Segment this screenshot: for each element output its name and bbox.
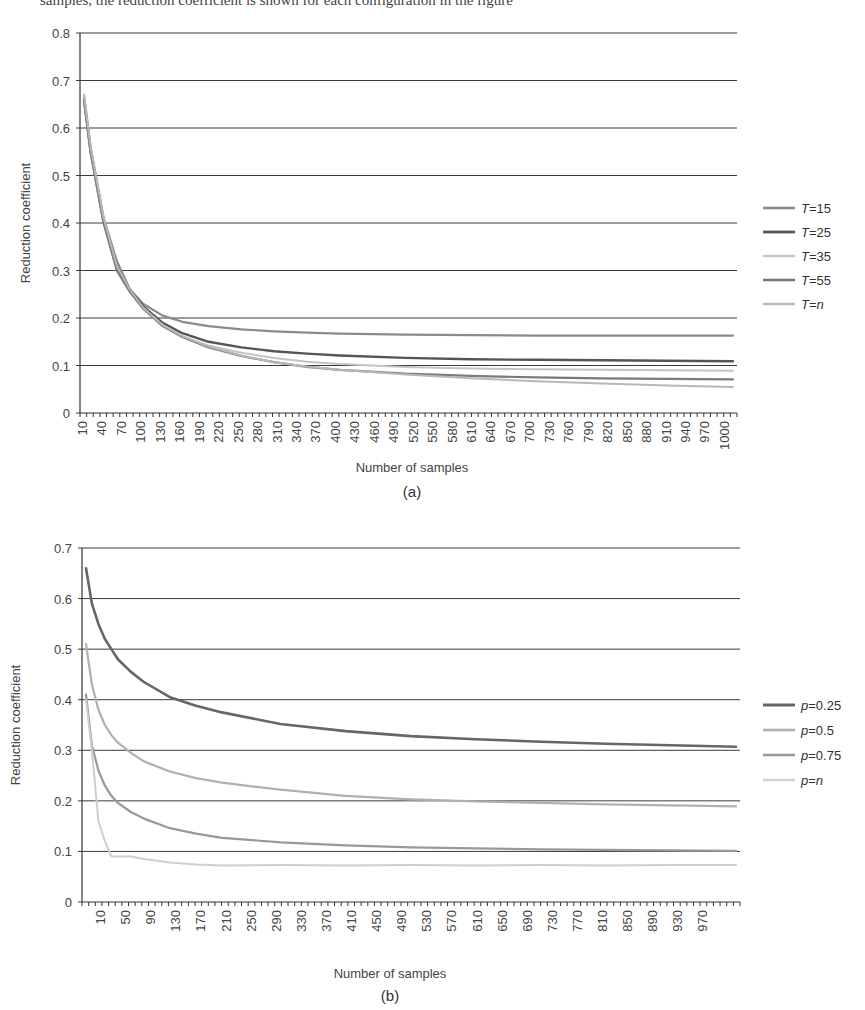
x-tick-label: 10: [75, 421, 90, 435]
x-tick-label: 100: [133, 421, 148, 443]
legend-label: T=25: [801, 225, 831, 240]
x-tick-label: 690: [520, 910, 535, 932]
y-tick-label: 0.6: [54, 592, 72, 607]
x-tick-label: 130: [168, 910, 183, 932]
panel-caption: (b): [381, 987, 399, 1004]
y-tick-label: 0.7: [54, 541, 72, 556]
legend-label: T=35: [801, 249, 831, 264]
x-tick-label: 890: [645, 910, 660, 932]
x-tick-label: 340: [289, 421, 304, 443]
x-tick-label: 410: [344, 910, 359, 932]
x-tick-label: 850: [620, 421, 635, 443]
x-tick-label: 250: [231, 421, 246, 443]
series-line-p-0-5: [86, 644, 736, 806]
x-tick-label: 530: [419, 910, 434, 932]
x-tick-label: 220: [211, 421, 226, 443]
x-tick-label: 210: [219, 910, 234, 932]
x-tick-label: 570: [444, 910, 459, 932]
x-tick-label: 810: [595, 910, 610, 932]
x-tick-label: 450: [369, 910, 384, 932]
x-tick-label: 490: [394, 910, 409, 932]
x-tick-label: 940: [678, 421, 693, 443]
legend-label: p=n: [800, 773, 823, 788]
x-tick-label: 640: [483, 421, 498, 443]
y-tick-label: 0.2: [54, 794, 72, 809]
x-tick-label: 70: [114, 421, 129, 435]
x-tick-label: 370: [308, 421, 323, 443]
series-line-p-0-25: [86, 568, 736, 747]
chart-a-reduction-coefficient-by-T: 00.10.20.30.40.50.60.70.8104070100130160…: [0, 0, 865, 505]
series-line-t-55: [84, 100, 733, 380]
x-tick-label: 930: [670, 910, 685, 932]
x-tick-label: 700: [522, 421, 537, 443]
series-line-t-15: [84, 95, 733, 336]
x-tick-label: 820: [600, 421, 615, 443]
y-tick-label: 0.5: [54, 642, 72, 657]
series-line-t-n: [84, 95, 733, 387]
x-tick-label: 770: [570, 910, 585, 932]
x-tick-label: 50: [118, 910, 133, 924]
y-tick-label: 0.3: [52, 264, 70, 279]
legend-label: p=0.75: [800, 748, 841, 763]
x-tick-label: 490: [386, 421, 401, 443]
y-tick-label: 0: [65, 895, 72, 910]
x-tick-label: 550: [425, 421, 440, 443]
x-axis-title: Number of samples: [356, 460, 469, 475]
x-tick-label: 460: [367, 421, 382, 443]
chart-b-reduction-coefficient-by-p: 00.10.20.30.40.50.60.7105090130170210250…: [0, 505, 865, 1010]
x-tick-label: 160: [172, 421, 187, 443]
x-tick-label: 580: [445, 421, 460, 443]
x-tick-label: 1000: [717, 421, 732, 450]
x-tick-label: 610: [464, 421, 479, 443]
x-tick-label: 970: [695, 910, 710, 932]
x-tick-label: 910: [659, 421, 674, 443]
x-tick-label: 130: [153, 421, 168, 443]
x-tick-label: 760: [561, 421, 576, 443]
x-tick-label: 90: [143, 910, 158, 924]
x-tick-label: 330: [294, 910, 309, 932]
y-tick-label: 0.1: [54, 844, 72, 859]
x-axis-title: Number of samples: [334, 966, 447, 981]
x-tick-label: 10: [93, 910, 108, 924]
x-tick-label: 430: [347, 421, 362, 443]
y-tick-label: 0.3: [54, 743, 72, 758]
legend-label: T=15: [801, 201, 831, 216]
y-tick-label: 0.6: [52, 121, 70, 136]
panel-caption: (a): [403, 483, 421, 500]
x-tick-label: 730: [545, 910, 560, 932]
y-axis-title: Reduction coefficient: [18, 162, 33, 283]
x-tick-label: 610: [470, 910, 485, 932]
x-tick-label: 520: [406, 421, 421, 443]
x-tick-label: 290: [269, 910, 284, 932]
y-tick-label: 0.8: [52, 26, 70, 41]
y-axis-title: Reduction coefficient: [8, 664, 23, 785]
y-tick-label: 0.4: [54, 693, 72, 708]
series-line-p-n: [86, 700, 736, 866]
x-tick-label: 190: [192, 421, 207, 443]
x-tick-label: 650: [495, 910, 510, 932]
y-tick-label: 0: [63, 406, 70, 421]
x-tick-label: 880: [639, 421, 654, 443]
y-tick-label: 0.1: [52, 359, 70, 374]
x-tick-label: 40: [94, 421, 109, 435]
legend-label: T=55: [801, 273, 831, 288]
y-tick-label: 0.5: [52, 169, 70, 184]
y-tick-label: 0.4: [52, 216, 70, 231]
y-tick-label: 0.2: [52, 311, 70, 326]
series-line-t-35: [84, 95, 733, 371]
x-tick-label: 170: [193, 910, 208, 932]
series-line-p-0-75: [86, 695, 736, 851]
x-tick-label: 370: [319, 910, 334, 932]
x-tick-label: 850: [620, 910, 635, 932]
x-tick-label: 970: [697, 421, 712, 443]
x-tick-label: 400: [328, 421, 343, 443]
x-tick-label: 730: [542, 421, 557, 443]
x-tick-label: 670: [503, 421, 518, 443]
legend-label: p=0.25: [800, 698, 841, 713]
x-tick-label: 310: [270, 421, 285, 443]
x-tick-label: 280: [250, 421, 265, 443]
legend-label: T=n: [801, 297, 824, 312]
x-tick-label: 250: [244, 910, 259, 932]
x-tick-label: 790: [581, 421, 596, 443]
y-tick-label: 0.7: [52, 74, 70, 89]
